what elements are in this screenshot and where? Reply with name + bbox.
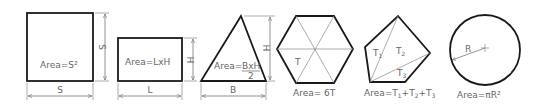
circle-area-formula: Area=πR² [457, 90, 501, 100]
rectangle-figure: L H Area=LxH [118, 38, 197, 100]
pentagon-area-formula: Area=T1+T2+T3 [364, 88, 436, 99]
pentagon-t3-label: T3 [396, 68, 407, 79]
square-shape [27, 13, 93, 81]
square-area-formula: Area=S² [40, 60, 78, 70]
triangle-height-label: H [261, 45, 271, 52]
hexagon-triangle-label: T [294, 57, 301, 67]
triangle-area-prefix: Area= [214, 61, 242, 71]
square-width-label: S [57, 85, 63, 95]
rectangle-width-label: L [147, 85, 152, 95]
rectangle-height-label: H [185, 57, 195, 64]
circle-figure: R Area=πR² [450, 15, 520, 100]
triangle-area-numerator: BxH [242, 61, 260, 71]
square-height-label: S [97, 44, 107, 50]
area-formulas-diagram: S S Area=S² L H Area=LxH B H Area= BxH 2 [0, 0, 546, 109]
triangle-base-label: B [230, 85, 236, 95]
rectangle-area-formula: Area=LxH [125, 57, 170, 67]
pentagon-t2-label: T2 [395, 46, 406, 57]
circle-radius-label: R [465, 44, 471, 54]
pentagon-t1-label: T1 [372, 48, 383, 59]
triangle-area-denominator: 2 [248, 71, 254, 81]
hexagon-area-formula: Area= 6T [293, 88, 336, 98]
square-figure: S S Area=S² [27, 13, 109, 100]
hexagon-figure: T Area= 6T [277, 16, 353, 98]
pentagon-figure: T1 T2 T3 Area=T1+T2+T3 [364, 16, 436, 99]
triangle-figure: B H Area= BxH 2 [201, 16, 275, 100]
